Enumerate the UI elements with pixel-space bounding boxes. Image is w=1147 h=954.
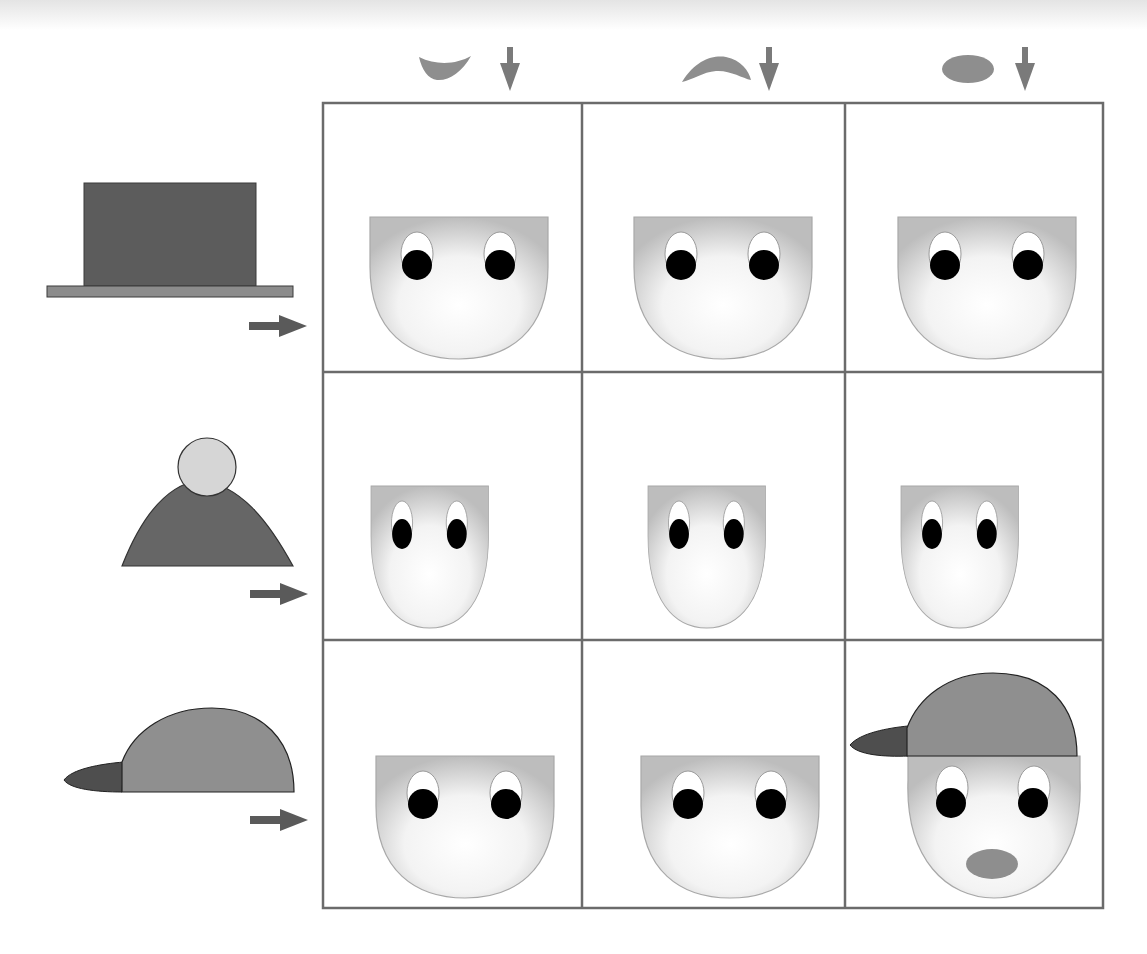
- right-arrow-icon: [250, 583, 308, 605]
- smile-mouth-icon: [419, 56, 471, 80]
- down-arrow-icon: [500, 47, 520, 91]
- down-arrow-icon: [1015, 47, 1035, 91]
- column-header-3: [942, 47, 1035, 91]
- face-r2-c1: [371, 486, 488, 628]
- puzzle-figure: [0, 0, 1147, 954]
- baseball-cap-icon: [64, 708, 294, 792]
- face-r1-c2: [634, 217, 812, 359]
- face-r3-c1: [376, 756, 554, 898]
- frown-mouth-icon: [682, 57, 751, 82]
- face-r3-c2: [641, 756, 819, 898]
- face-r3-c3: [850, 673, 1080, 898]
- right-arrow-icon: [250, 809, 308, 831]
- baseball-cap-icon: [850, 673, 1077, 756]
- top-hat-icon: [47, 183, 293, 297]
- face-r2-c3: [901, 486, 1018, 628]
- bobble-hat-icon: [122, 438, 293, 566]
- right-arrow-icon: [249, 315, 307, 337]
- row-header-2: [122, 438, 308, 605]
- row-header-1: [47, 183, 307, 337]
- down-arrow-icon: [759, 47, 779, 91]
- oval-mouth-icon: [942, 55, 994, 83]
- face-r1-c1: [370, 217, 548, 359]
- column-header-2: [682, 47, 779, 91]
- column-header-1: [419, 47, 520, 91]
- face-r1-c3: [898, 217, 1076, 359]
- oval-mouth-icon: [966, 849, 1018, 879]
- face-r2-c2: [648, 486, 765, 628]
- row-header-3: [64, 708, 308, 831]
